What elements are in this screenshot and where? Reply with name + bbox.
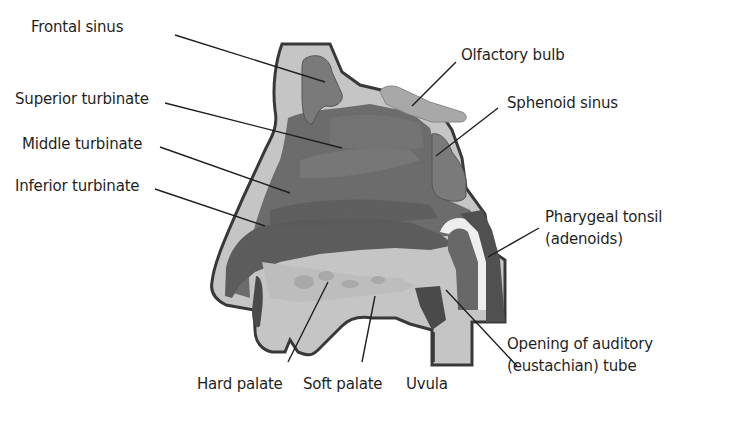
label-auditory-tube-sub: (eustachian) tube <box>507 357 636 376</box>
label-middle-turbinate: Middle turbinate <box>22 135 142 154</box>
label-soft-palate: Soft palate <box>303 375 382 394</box>
label-auditory-tube: Opening of auditory <box>507 335 653 354</box>
label-pharyngeal-tonsil: Pharygeal tonsil <box>545 208 662 227</box>
label-superior-turbinate: Superior turbinate <box>15 90 149 109</box>
label-hard-palate: Hard palate <box>197 375 283 394</box>
label-pharyngeal-tonsil-sub: (adenoids) <box>545 230 623 249</box>
label-sphenoid-sinus: Sphenoid sinus <box>507 94 618 113</box>
label-inferior-turbinate: Inferior turbinate <box>15 177 139 196</box>
label-frontal-sinus: Frontal sinus <box>31 18 123 37</box>
label-olfactory-bulb: Olfactory bulb <box>461 46 564 65</box>
label-uvula: Uvula <box>406 375 448 394</box>
nasal-cavity-diagram: Frontal sinus Superior turbinate Middle … <box>0 0 730 422</box>
